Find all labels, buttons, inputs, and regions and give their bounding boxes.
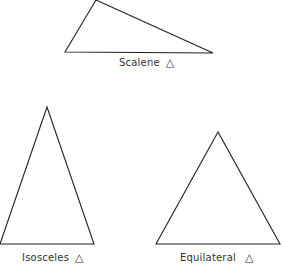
scalene-label: Scalene△ <box>119 56 174 69</box>
scalene-triangle <box>65 0 213 53</box>
triangle-symbol-icon: △ <box>75 251 84 264</box>
isosceles-label: Isosceles△ <box>22 251 84 264</box>
triangle-symbol-icon: △ <box>166 56 175 69</box>
equilateral-triangle <box>156 132 280 244</box>
isosceles-label-text: Isosceles <box>22 252 69 263</box>
triangle-symbol-icon: △ <box>245 251 254 264</box>
scalene-label-text: Scalene <box>119 57 160 68</box>
triangle-diagram <box>0 0 283 272</box>
equilateral-label-text: Equilateral <box>180 252 236 263</box>
isosceles-triangle <box>0 107 94 244</box>
equilateral-label: Equilateral△ <box>180 251 254 264</box>
